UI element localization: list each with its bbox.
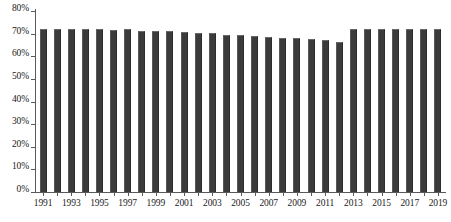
y-axis-tick-label: 40% bbox=[12, 95, 29, 105]
x-axis-tick-mark bbox=[198, 192, 199, 196]
bar bbox=[152, 31, 159, 192]
bar bbox=[181, 32, 188, 192]
x-axis-tick-mark bbox=[269, 192, 270, 196]
bar bbox=[237, 35, 244, 192]
bar bbox=[96, 29, 103, 192]
y-axis-tick-mark bbox=[31, 124, 35, 125]
bar bbox=[195, 33, 202, 193]
plot-area bbox=[36, 11, 445, 192]
x-axis-tick-label: 2005 bbox=[231, 198, 250, 208]
x-axis-tick-label: 1991 bbox=[34, 198, 53, 208]
bar bbox=[378, 29, 385, 192]
x-axis-tick-label: 2017 bbox=[400, 198, 419, 208]
x-axis-tick-mark bbox=[382, 192, 383, 196]
x-axis-tick-label: 2013 bbox=[344, 198, 363, 208]
bar-chart: 0%10%20%30%40%50%60%70%80% 1991199319951… bbox=[0, 0, 451, 222]
x-axis-tick-mark bbox=[424, 192, 425, 196]
x-axis-tick-label: 1995 bbox=[90, 198, 109, 208]
x-axis-tick-mark bbox=[128, 192, 129, 196]
x-axis-tick-mark bbox=[353, 192, 354, 196]
x-axis-tick-mark bbox=[297, 192, 298, 196]
bar bbox=[124, 29, 131, 192]
y-axis-tick-label: 50% bbox=[12, 72, 29, 82]
bar bbox=[434, 29, 441, 192]
bar bbox=[54, 29, 61, 192]
x-axis-tick-mark bbox=[85, 192, 86, 196]
bar bbox=[336, 42, 343, 192]
x-axis-tick-mark bbox=[43, 192, 44, 196]
y-axis-tick-label: 80% bbox=[12, 4, 29, 14]
bar bbox=[308, 39, 315, 192]
x-axis-tick-label: 2009 bbox=[288, 198, 307, 208]
bar bbox=[392, 29, 399, 192]
y-axis-tick-mark bbox=[31, 34, 35, 35]
x-axis-tick-mark bbox=[212, 192, 213, 196]
bar bbox=[364, 29, 371, 192]
x-axis-tick-mark bbox=[114, 192, 115, 196]
bar bbox=[223, 35, 230, 192]
y-axis-tick-mark bbox=[31, 11, 35, 12]
x-axis-tick-mark bbox=[325, 192, 326, 196]
y-axis-tick-label: 20% bbox=[12, 140, 29, 150]
bar bbox=[110, 30, 117, 192]
x-axis-tick-mark bbox=[339, 192, 340, 196]
x-axis-tick-mark bbox=[255, 192, 256, 196]
y-axis-tick-mark bbox=[31, 169, 35, 170]
bar bbox=[265, 37, 272, 192]
x-axis-tick-label: 2001 bbox=[175, 198, 194, 208]
bar bbox=[350, 29, 357, 192]
y-axis-tick-label: 10% bbox=[12, 162, 29, 172]
x-axis-tick-mark bbox=[410, 192, 411, 196]
bar bbox=[40, 29, 47, 192]
x-axis-tick-mark bbox=[396, 192, 397, 196]
y-axis-tick-mark bbox=[31, 102, 35, 103]
x-axis-tick-label: 2007 bbox=[259, 198, 278, 208]
y-axis-tick-mark bbox=[31, 192, 35, 193]
x-axis-tick-mark bbox=[241, 192, 242, 196]
bar bbox=[251, 36, 258, 192]
x-axis-tick-label: 1999 bbox=[147, 198, 166, 208]
bar bbox=[209, 33, 216, 192]
bar bbox=[293, 38, 300, 192]
x-axis-tick-mark bbox=[311, 192, 312, 196]
x-axis-tick-label: 2011 bbox=[316, 198, 334, 208]
x-axis-tick-label: 2003 bbox=[203, 198, 222, 208]
y-axis-tick-label: 0% bbox=[17, 185, 29, 195]
x-axis-tick-mark bbox=[71, 192, 72, 196]
x-axis-tick-mark bbox=[438, 192, 439, 196]
x-axis-tick-mark bbox=[57, 192, 58, 196]
y-axis-tick-mark bbox=[31, 147, 35, 148]
y-axis-tick-label: 30% bbox=[12, 117, 29, 127]
bar bbox=[406, 29, 413, 192]
x-axis-tick-mark bbox=[184, 192, 185, 196]
bar bbox=[82, 29, 89, 192]
bar bbox=[138, 31, 145, 192]
x-axis-tick-label: 1997 bbox=[118, 198, 137, 208]
bar bbox=[420, 29, 427, 192]
x-axis-tick-mark bbox=[283, 192, 284, 196]
x-axis-tick-label: 2019 bbox=[429, 198, 448, 208]
x-axis-tick-mark bbox=[156, 192, 157, 196]
x-axis-tick-label: 1993 bbox=[62, 198, 81, 208]
bar bbox=[322, 40, 329, 192]
bar bbox=[279, 38, 286, 192]
y-axis-tick-label: 70% bbox=[12, 27, 29, 37]
x-axis-tick-mark bbox=[142, 192, 143, 196]
y-axis-tick-label: 60% bbox=[12, 49, 29, 59]
x-axis-tick-mark bbox=[170, 192, 171, 196]
y-axis-tick-mark bbox=[31, 79, 35, 80]
x-axis-tick-mark bbox=[226, 192, 227, 196]
bar bbox=[166, 31, 173, 192]
bar bbox=[68, 29, 75, 192]
x-axis-tick-label: 2015 bbox=[372, 198, 391, 208]
x-axis-tick-mark bbox=[99, 192, 100, 196]
x-axis-tick-mark bbox=[367, 192, 368, 196]
y-axis-tick-mark bbox=[31, 56, 35, 57]
